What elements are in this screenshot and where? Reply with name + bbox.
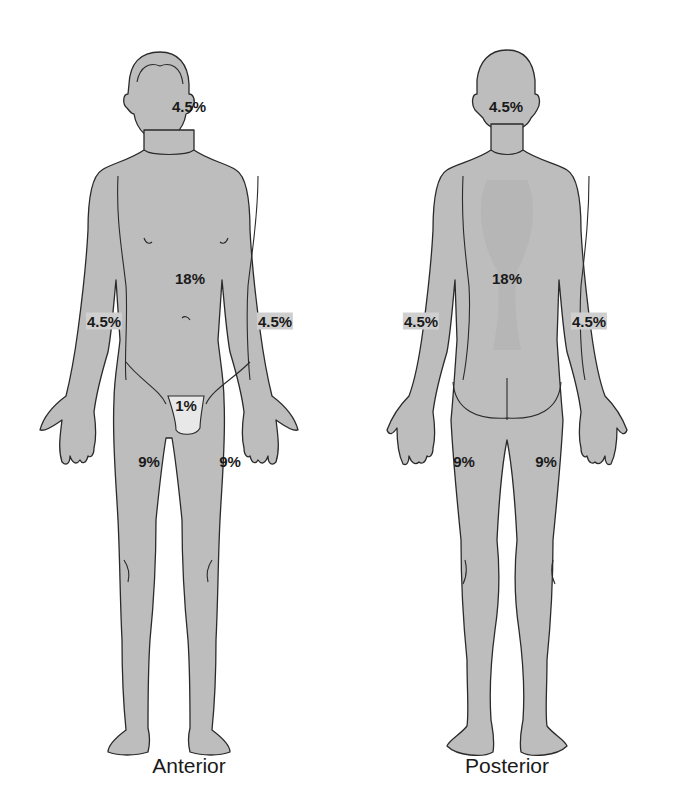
anterior-head-label: 4.5%: [172, 98, 206, 115]
posterior-figure: 4.5% 18% 4.5% 4.5% 9% 9% Posterior: [337, 0, 674, 792]
anterior-figure: 4.5% 18% 4.5% 4.5% 1% 9% 9% Anterior: [0, 0, 337, 792]
posterior-left-leg-label: 9%: [453, 453, 475, 470]
anterior-body-illustration: [0, 0, 337, 792]
posterior-left-arm-label: 4.5%: [403, 313, 439, 330]
anterior-trunk-label: 18%: [175, 270, 205, 287]
posterior-body-illustration: [337, 0, 674, 792]
anterior-left-leg-label: 9%: [219, 453, 241, 470]
posterior-right-leg-label: 9%: [535, 453, 557, 470]
anterior-genitalia-label: 1%: [175, 397, 197, 414]
anterior-caption: Anterior: [152, 754, 226, 778]
posterior-trunk-label: 18%: [492, 270, 522, 287]
posterior-head-label: 4.5%: [489, 98, 523, 115]
anterior-right-arm-label: 4.5%: [86, 313, 122, 330]
anterior-left-arm-label: 4.5%: [257, 313, 293, 330]
anterior-right-leg-label: 9%: [138, 453, 160, 470]
posterior-right-arm-label: 4.5%: [571, 313, 607, 330]
posterior-caption: Posterior: [465, 754, 549, 778]
